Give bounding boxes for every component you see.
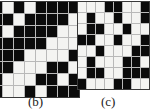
grid-cell bbox=[96, 2, 104, 12]
grid-cell bbox=[58, 38, 68, 49]
grid-cell bbox=[25, 50, 35, 61]
grid-cell bbox=[114, 57, 122, 67]
grid-cell bbox=[105, 24, 113, 34]
grid-cell bbox=[3, 26, 13, 37]
grid-cell bbox=[105, 35, 113, 45]
grid-cell bbox=[0, 38, 2, 49]
grid-cell bbox=[87, 35, 95, 45]
grid-cell bbox=[105, 79, 113, 89]
grid-cell bbox=[141, 46, 149, 56]
grid-cell bbox=[132, 24, 140, 34]
grid-cell bbox=[96, 68, 104, 78]
caption-b: (b) bbox=[28, 94, 43, 110]
grid-cell bbox=[105, 57, 113, 67]
grid-cell bbox=[36, 62, 46, 73]
caption-c: (c) bbox=[101, 94, 115, 110]
grid-cell bbox=[105, 46, 113, 56]
grid-cell bbox=[78, 79, 86, 89]
grid-cell bbox=[96, 46, 104, 56]
grid-cell bbox=[47, 38, 57, 49]
grid-cell bbox=[36, 50, 46, 61]
grid-cell bbox=[132, 2, 140, 12]
grid-cell bbox=[0, 26, 2, 37]
grid-cell bbox=[141, 35, 149, 45]
grid-cell bbox=[141, 13, 149, 23]
grid-cell bbox=[14, 74, 24, 85]
grid-cell bbox=[0, 74, 2, 85]
grid-cell bbox=[3, 62, 13, 73]
grid-cell bbox=[14, 2, 24, 13]
grid-cell bbox=[78, 24, 86, 34]
grid-cell bbox=[141, 24, 149, 34]
grid-cell bbox=[123, 13, 131, 23]
grid-cell bbox=[87, 24, 95, 34]
grid-cell bbox=[58, 26, 68, 37]
grid-cell bbox=[36, 26, 46, 37]
grid-cell bbox=[47, 14, 57, 25]
pattern-grid-c bbox=[77, 1, 150, 90]
grid-cell bbox=[123, 46, 131, 56]
grid-cell bbox=[114, 79, 122, 89]
grid-cell bbox=[114, 35, 122, 45]
grid-cell bbox=[96, 24, 104, 34]
grid-cell bbox=[96, 57, 104, 67]
grid-cell bbox=[123, 35, 131, 45]
grid-cell bbox=[87, 57, 95, 67]
grid-cell bbox=[87, 2, 95, 12]
panel-b bbox=[0, 1, 80, 98]
grid-cell bbox=[36, 14, 46, 25]
grid-cell bbox=[14, 38, 24, 49]
grid-cell bbox=[36, 38, 46, 49]
grid-cell bbox=[132, 79, 140, 89]
grid-cell bbox=[0, 14, 2, 25]
grid-cell bbox=[114, 24, 122, 34]
grid-cell bbox=[25, 14, 35, 25]
grid-cell bbox=[114, 46, 122, 56]
pattern-grid-b bbox=[0, 1, 80, 98]
grid-cell bbox=[141, 68, 149, 78]
grid-cell bbox=[3, 2, 13, 13]
grid-cell bbox=[87, 46, 95, 56]
grid-cell bbox=[96, 13, 104, 23]
grid-cell bbox=[105, 2, 113, 12]
grid-cell bbox=[25, 38, 35, 49]
grid-cell bbox=[58, 14, 68, 25]
grid-cell bbox=[105, 68, 113, 78]
grid-cell bbox=[78, 13, 86, 23]
grid-cell bbox=[114, 13, 122, 23]
grid-cell bbox=[87, 68, 95, 78]
grid-cell bbox=[141, 79, 149, 89]
grid-cell bbox=[141, 2, 149, 12]
grid-cell bbox=[3, 50, 13, 61]
grid-cell bbox=[78, 57, 86, 67]
grid-cell bbox=[14, 50, 24, 61]
grid-cell bbox=[47, 74, 57, 85]
panel-c bbox=[77, 1, 150, 90]
grid-cell bbox=[132, 35, 140, 45]
grid-cell bbox=[25, 2, 35, 13]
grid-cell bbox=[58, 50, 68, 61]
grid-cell bbox=[36, 2, 46, 13]
grid-cell bbox=[25, 26, 35, 37]
grid-cell bbox=[47, 26, 57, 37]
grid-cell bbox=[123, 79, 131, 89]
grid-cell bbox=[58, 2, 68, 13]
grid-cell bbox=[47, 2, 57, 13]
grid-cell bbox=[0, 2, 2, 13]
grid-cell bbox=[3, 74, 13, 85]
grid-cell bbox=[123, 68, 131, 78]
grid-cell bbox=[141, 57, 149, 67]
grid-cell bbox=[105, 13, 113, 23]
grid-cell bbox=[3, 14, 13, 25]
grid-cell bbox=[78, 35, 86, 45]
captions-row: (b) (c) bbox=[0, 92, 153, 112]
grid-cell bbox=[25, 74, 35, 85]
grid-cell bbox=[0, 62, 2, 73]
grid-cell bbox=[87, 13, 95, 23]
grid-cell bbox=[96, 79, 104, 89]
grid-cell bbox=[47, 62, 57, 73]
grid-cell bbox=[36, 74, 46, 85]
grid-cell bbox=[114, 68, 122, 78]
grid-cell bbox=[123, 2, 131, 12]
grid-cell bbox=[87, 79, 95, 89]
